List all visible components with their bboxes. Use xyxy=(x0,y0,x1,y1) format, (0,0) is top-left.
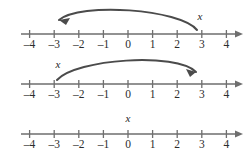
tick-label: –2 xyxy=(72,88,85,100)
tick-label: –4 xyxy=(23,38,36,50)
tick-label: 2 xyxy=(174,138,180,150)
tick-label: 1 xyxy=(150,138,156,150)
tick-label: 1 xyxy=(150,88,156,100)
number-line-1: –4–3–2–101234x xyxy=(21,10,243,50)
variable-label-x: x xyxy=(197,10,203,22)
number-lines-svg: –4–3–2–101234x–4–3–2–101234x–4–3–2–10123… xyxy=(0,0,252,160)
variable-label-x: x xyxy=(125,112,131,124)
tick-label: 0 xyxy=(125,38,131,50)
tick-label: 2 xyxy=(174,88,180,100)
tick-label: 4 xyxy=(224,138,230,150)
variable-label-x: x xyxy=(55,58,61,70)
tick-label: 0 xyxy=(125,88,131,100)
tick-label: 4 xyxy=(224,88,230,100)
tick-label: 1 xyxy=(150,38,156,50)
tick-label: 4 xyxy=(224,38,230,50)
tick-label: –4 xyxy=(23,138,36,150)
tick-label: –1 xyxy=(97,138,110,150)
tick-label: –1 xyxy=(97,88,110,100)
number-line-figure: –4–3–2–101234x–4–3–2–101234x–4–3–2–10123… xyxy=(0,0,252,160)
reflection-arc xyxy=(57,60,196,80)
tick-label: –3 xyxy=(47,38,60,50)
tick-label: –2 xyxy=(72,138,85,150)
number-line-2: –4–3–2–101234x xyxy=(21,58,243,100)
reflection-arc xyxy=(59,10,197,30)
axis-arrowhead-icon xyxy=(235,130,243,137)
tick-label: 3 xyxy=(199,38,205,50)
tick-label: –2 xyxy=(72,38,85,50)
axis-arrowhead-icon xyxy=(235,80,243,87)
tick-label: –4 xyxy=(23,88,36,100)
tick-label: 3 xyxy=(199,88,205,100)
tick-label: 3 xyxy=(199,138,205,150)
tick-label: 0 xyxy=(125,138,131,150)
tick-label: –3 xyxy=(47,88,60,100)
number-line-3: –4–3–2–101234x xyxy=(21,112,243,150)
tick-label: –3 xyxy=(47,138,60,150)
axis-arrowhead-icon xyxy=(235,30,243,37)
tick-label: –1 xyxy=(97,38,110,50)
tick-label: 2 xyxy=(174,38,180,50)
